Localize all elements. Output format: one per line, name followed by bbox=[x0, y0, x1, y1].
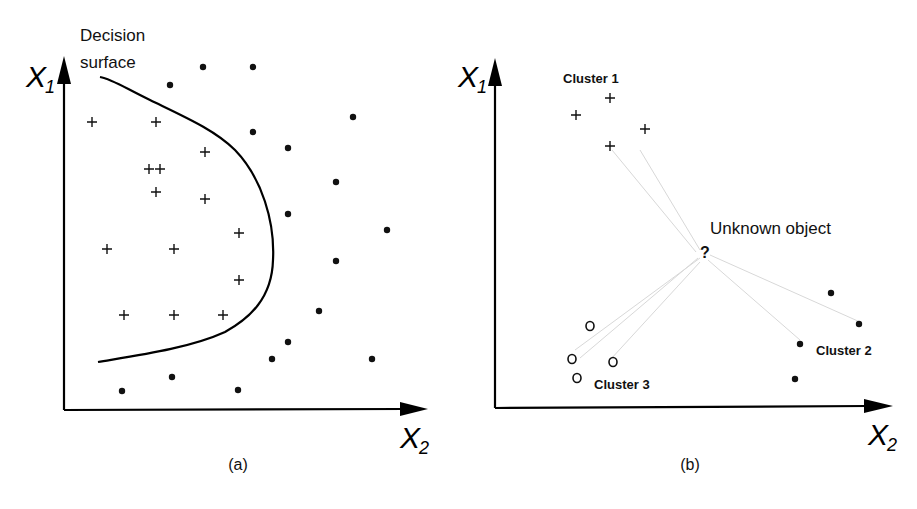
y-axis-label: X1 bbox=[25, 60, 55, 97]
x-axis-arrow-icon bbox=[400, 402, 428, 416]
dot-point bbox=[169, 374, 175, 380]
caption-a: (a) bbox=[228, 456, 248, 473]
dot-point bbox=[333, 258, 339, 264]
plus-point bbox=[151, 117, 161, 127]
dot-point bbox=[250, 129, 256, 135]
dot-point bbox=[316, 308, 322, 314]
distance-lines bbox=[575, 150, 860, 360]
dot-point bbox=[285, 145, 291, 151]
plus-point bbox=[151, 187, 161, 197]
plus-point bbox=[200, 194, 210, 204]
y-axis-arrow-icon bbox=[57, 56, 71, 84]
decision-surface-label-line2: surface bbox=[80, 53, 136, 72]
cluster-3-label: Cluster 3 bbox=[594, 377, 650, 392]
dot-point bbox=[792, 376, 798, 382]
plus-point bbox=[169, 310, 179, 320]
plus-point bbox=[169, 244, 179, 254]
dot-point bbox=[828, 290, 834, 296]
panel-b: X1 X2 ? Unknown object Cluster 1 Cluster… bbox=[457, 58, 897, 473]
dot-point bbox=[369, 356, 375, 362]
dot-point bbox=[119, 388, 125, 394]
unknown-object-label: Unknown object bbox=[710, 219, 831, 238]
dot-point bbox=[235, 387, 241, 393]
y-axis-label: X1 bbox=[457, 60, 487, 97]
dot-point bbox=[269, 356, 275, 362]
panel-a: X1 X2 Decision surface (a) bbox=[25, 26, 429, 473]
dot-point bbox=[285, 339, 291, 345]
plus-point bbox=[234, 228, 244, 238]
x-axis-arrow-icon bbox=[864, 399, 893, 413]
plus-point bbox=[200, 147, 210, 157]
dot-point bbox=[200, 64, 206, 70]
plus-point bbox=[102, 244, 112, 254]
circle-point bbox=[568, 355, 576, 364]
cluster-3-points bbox=[568, 322, 617, 383]
x-axis-line bbox=[495, 406, 868, 408]
dot-point bbox=[797, 341, 803, 347]
caption-b: (b) bbox=[680, 456, 700, 473]
plus-point bbox=[87, 117, 97, 127]
cluster-2-label: Cluster 2 bbox=[816, 343, 872, 358]
plus-point bbox=[218, 310, 228, 320]
cluster-2-points bbox=[792, 290, 862, 382]
dot-point bbox=[167, 82, 173, 88]
plus-point bbox=[144, 164, 154, 174]
x-axis-line bbox=[64, 409, 405, 410]
decision-surface-label-line1: Decision bbox=[80, 26, 145, 45]
dot-point bbox=[350, 114, 356, 120]
dot-point bbox=[285, 211, 291, 217]
cluster-1-label: Cluster 1 bbox=[563, 71, 619, 86]
plus-point bbox=[234, 275, 244, 285]
dot-point bbox=[333, 179, 339, 185]
x-axis-label: X2 bbox=[867, 418, 897, 455]
dot-point bbox=[250, 64, 256, 70]
plus-point bbox=[605, 93, 615, 103]
plus-point bbox=[155, 164, 165, 174]
class-plus-points bbox=[87, 117, 244, 320]
class-dot-points bbox=[119, 64, 390, 394]
dot-point bbox=[856, 321, 862, 327]
x-axis-label: X2 bbox=[399, 421, 429, 458]
circle-point bbox=[609, 358, 617, 367]
y-axis-arrow-icon bbox=[488, 58, 502, 86]
plus-point bbox=[640, 124, 650, 134]
circle-point bbox=[573, 374, 581, 383]
figure-canvas: X1 X2 Decision surface (a) X1 X2 bbox=[0, 0, 917, 509]
plus-point bbox=[605, 141, 615, 151]
dot-point bbox=[384, 227, 390, 233]
circle-point bbox=[586, 322, 594, 331]
cluster-1-points bbox=[571, 93, 650, 151]
unknown-object-marker: ? bbox=[700, 244, 710, 261]
plus-point bbox=[119, 310, 129, 320]
plus-point bbox=[571, 110, 581, 120]
